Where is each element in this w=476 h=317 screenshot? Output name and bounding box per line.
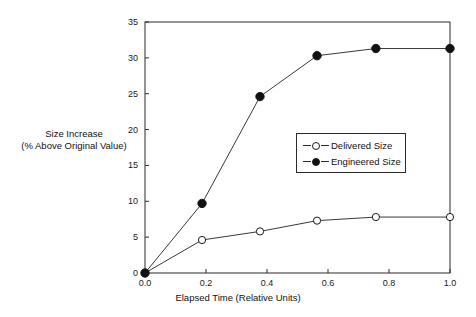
filled-circle-marker [313,52,321,60]
x-tick-label: 0.0 [139,278,152,288]
y-tick-label: 35 [110,17,138,27]
x-tick-label: 0.8 [383,278,396,288]
y-tick-label: 10 [110,196,138,206]
open-circle-marker-icon [303,140,329,152]
filled-circle-marker [256,92,264,100]
filled-circle-marker [372,44,380,52]
y-axis-title-line-2: (% Above Original Value) [10,140,138,152]
y-tick-label: 15 [110,160,138,170]
y-axis-title: Size Increase (% Above Original Value) [10,128,138,152]
y-tick-label: 25 [110,89,138,99]
y-tick-label: 30 [110,53,138,63]
x-tick-label: 0.2 [200,278,213,288]
x-tick-label: 0.4 [261,278,274,288]
legend-label-engineered-size: Engineered Size [331,156,401,168]
legend-item-engineered-size: Engineered Size [303,154,401,169]
chart-figure: 05101520253035 0.00.20.40.60.81.0 Size I… [0,0,476,317]
legend-item-delivered-size: Delivered Size [303,138,392,153]
open-circle-marker [198,236,205,243]
x-axis-title: Elapsed Time (Relative Units) [0,292,476,304]
x-tick-label: 0.6 [322,278,335,288]
open-circle-marker [256,228,263,235]
open-circle-marker [372,213,379,220]
filled-circle-marker [198,199,206,207]
y-tick-label: 0 [110,268,138,278]
filled-circle-marker [141,269,149,277]
x-tick-label: 1.0 [444,278,457,288]
chart-legend: Delivered Size Engineered Size [296,133,406,173]
open-circle-marker [313,217,320,224]
y-tick-label: 5 [110,232,138,242]
filled-circle-marker [446,44,454,52]
filled-circle-marker-icon [303,156,329,168]
legend-label-delivered-size: Delivered Size [331,140,392,152]
open-circle-marker [446,213,453,220]
y-axis-title-line-1: Size Increase [10,128,138,140]
